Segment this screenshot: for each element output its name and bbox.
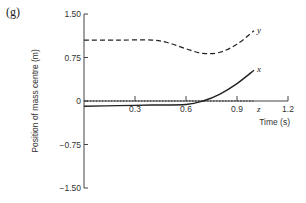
series-lines [84,31,254,106]
y-tick-label: 0 [76,96,81,106]
series-x-label: x [256,64,261,74]
y-tick-label: −0.75 [59,140,81,150]
series-y-label: y [256,25,261,35]
x-tick-label: 1.2 [282,104,294,114]
y-tick-label: 1.50 [64,9,81,19]
x-tick-label: 0.9 [231,104,243,114]
x-tick-label: 0.3 [129,104,141,114]
x-axis-title: Time (s) [259,117,290,127]
y-tick-label: 0.75 [64,53,81,63]
position-chart: 1.500.750−0.75−1.500.30.60.91.2Time (s)P… [0,0,306,203]
x-tick-label: 0.6 [180,104,192,114]
series-y-line [84,31,254,54]
y-axis-title: Position of mass centre (m) [30,49,40,153]
y-tick-label: −1.50 [59,183,81,193]
series-z-label: z [256,104,261,114]
